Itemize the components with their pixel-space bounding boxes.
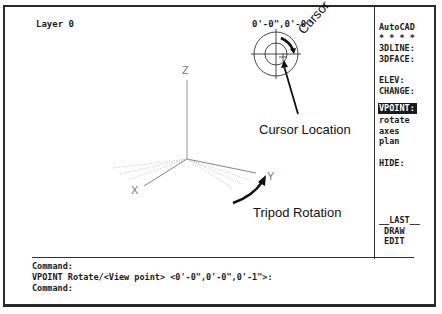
compass-globe-icon[interactable] <box>251 29 301 79</box>
cursor-location-arrow-icon <box>284 66 298 114</box>
x-axis-label: X <box>131 184 138 196</box>
command-prompt[interactable]: Command: <box>32 283 73 293</box>
axis-tripod-icon <box>112 80 256 188</box>
command-line-1: Command: <box>32 261 73 271</box>
z-axis-label: Z <box>182 64 189 76</box>
command-line-2: VPOINT Rotate/<View point> <0'-0",0'-0",… <box>32 272 273 282</box>
y-axis-label: Y <box>267 170 274 182</box>
tripod-rotation-arrow-icon <box>233 182 262 203</box>
tripod-rotation-annotation: Tripod Rotation <box>253 205 341 220</box>
cursor-direction-arrow-icon <box>281 38 293 50</box>
cursor-location-annotation: Cursor Location <box>259 122 351 137</box>
